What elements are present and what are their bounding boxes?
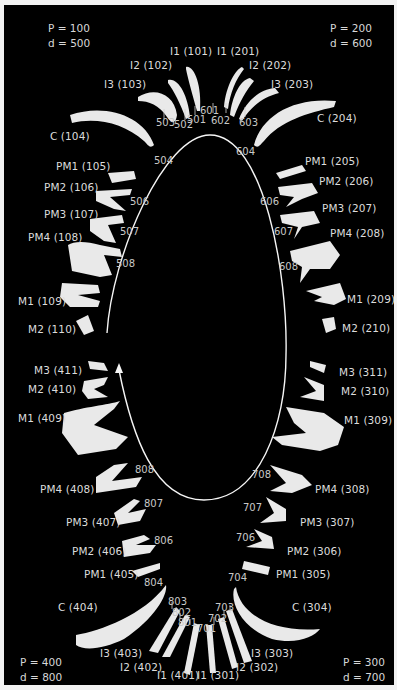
tooth-label-207: PM3 (207): [322, 202, 377, 214]
deciduous-quadrant-code: d = 600: [330, 36, 372, 51]
upper-left-cheek-teeth: [276, 165, 346, 333]
tooth-label-107: PM3 (107): [44, 208, 99, 220]
permanent-quadrant-code: P = 400: [20, 655, 62, 670]
deciduous-807: 807: [144, 498, 163, 509]
quadrant-2-label: P = 200 d = 600: [330, 21, 372, 51]
tooth-label-409: M1 (409): [18, 412, 66, 424]
tooth-label-410: M2 (410): [28, 383, 76, 395]
arrow-up-icon: [115, 363, 123, 373]
deciduous-607: 607: [274, 226, 293, 237]
tooth-label-304: C (304): [292, 601, 332, 613]
upper-right-cheek-teeth: [60, 171, 136, 335]
tooth-label-206: PM2 (206): [319, 175, 374, 187]
tooth-label-101: I1 (101): [170, 45, 212, 57]
tooth-label-109: M1 (109): [18, 295, 66, 307]
deciduous-ticks: [164, 103, 245, 625]
quadrant-3-label: P = 300 d = 700: [343, 655, 385, 685]
tooth-label-311: M3 (311): [339, 366, 387, 378]
tooth-label-205: PM1 (205): [305, 155, 360, 167]
tooth-label-204: C (204): [317, 112, 357, 124]
deciduous-504: 504: [154, 155, 173, 166]
tooth-label-411: M3 (411): [34, 364, 82, 376]
tooth-label-305: PM1 (305): [276, 568, 331, 580]
deciduous-808: 808: [135, 464, 154, 475]
teeth-illustration: [4, 5, 394, 685]
deciduous-703: 703: [215, 602, 234, 613]
deciduous-quadrant-code: d = 700: [343, 670, 385, 685]
deciduous-802: 802: [172, 607, 191, 618]
deciduous-604: 604: [236, 146, 255, 157]
deciduous-801: 801: [178, 617, 197, 628]
tooth-label-408: PM4 (408): [40, 483, 95, 495]
tooth-label-106: PM2 (106): [44, 181, 99, 193]
tooth-label-406: PM2 (406): [72, 545, 127, 557]
tooth-label-306: PM2 (306): [287, 545, 342, 557]
tooth-label-307: PM3 (307): [300, 516, 355, 528]
lower-canine-404: [76, 585, 166, 648]
tooth-label-103: I3 (103): [104, 78, 146, 90]
quadrant-1-label: P = 100 d = 500: [48, 21, 90, 51]
tooth-label-309: M1 (309): [344, 414, 392, 426]
deciduous-502: 502: [174, 119, 193, 130]
deciduous-706: 706: [236, 532, 255, 543]
tooth-label-209: M1 (209): [347, 293, 394, 305]
quadrant-4-label: P = 400 d = 800: [20, 655, 62, 685]
tooth-label-203: I3 (203): [271, 78, 313, 90]
deciduous-708: 708: [252, 469, 271, 480]
tooth-label-404: C (404): [58, 601, 98, 613]
tooth-label-303: I3 (303): [251, 647, 293, 659]
deciduous-603: 603: [239, 117, 258, 128]
deciduous-quadrant-code: d = 500: [48, 36, 90, 51]
tooth-label-402: I2 (402): [120, 661, 162, 673]
tooth-label-110: M2 (110): [28, 323, 76, 335]
tooth-label-405: PM1 (405): [84, 568, 139, 580]
tooth-label-104: C (104): [50, 130, 90, 142]
deciduous-702: 702: [208, 613, 227, 624]
deciduous-803: 803: [168, 596, 187, 607]
tooth-label-407: PM3 (407): [66, 516, 121, 528]
tooth-label-308: PM4 (308): [315, 483, 370, 495]
deciduous-602: 602: [211, 115, 230, 126]
deciduous-506: 506: [130, 196, 149, 207]
deciduous-806: 806: [154, 535, 173, 546]
tooth-label-108: PM4 (108): [28, 231, 83, 243]
tooth-label-210: M2 (210): [342, 322, 390, 334]
numbering-direction-loop: [107, 135, 286, 500]
permanent-quadrant-code: P = 300: [343, 655, 385, 670]
deciduous-507: 507: [120, 226, 139, 237]
deciduous-508: 508: [116, 258, 135, 269]
deciduous-quadrant-code: d = 800: [20, 670, 62, 685]
lower-canine-304: [233, 587, 320, 641]
tooth-label-310: M2 (310): [341, 385, 389, 397]
deciduous-704: 704: [228, 572, 247, 583]
tooth-label-202: I2 (202): [249, 59, 291, 71]
tooth-label-102: I2 (102): [130, 59, 172, 71]
deciduous-707: 707: [243, 502, 262, 513]
tooth-label-301: I1 (301): [197, 669, 239, 681]
tooth-label-208: PM4 (208): [330, 227, 385, 239]
permanent-quadrant-code: P = 100: [48, 21, 90, 36]
tooth-label-105: PM1 (105): [56, 160, 111, 172]
deciduous-608: 608: [279, 261, 298, 272]
deciduous-701: 701: [197, 623, 216, 634]
dental-chart-panel: P = 100 d = 500 P = 200 d = 600 P = 400 …: [4, 5, 394, 685]
deciduous-503: 503: [156, 117, 175, 128]
tooth-label-302: I2 (302): [236, 661, 278, 673]
tooth-label-403: I3 (403): [100, 647, 142, 659]
permanent-quadrant-code: P = 200: [330, 21, 372, 36]
deciduous-606: 606: [260, 196, 279, 207]
tooth-label-201: I1 (201): [217, 45, 259, 57]
deciduous-804: 804: [144, 577, 163, 588]
tooth-label-401: I1 (401): [157, 669, 199, 681]
